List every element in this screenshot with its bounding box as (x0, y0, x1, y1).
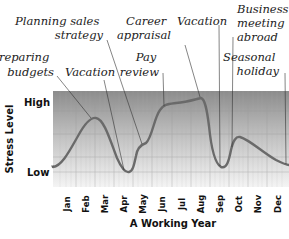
annotation-planning-sales-strategy: Planning sales strategy (14, 14, 103, 42)
annotation-business-meeting-abroad: Business meeting abroad (236, 2, 289, 44)
x-tick-may: May (138, 194, 148, 214)
annotations: Preparing budgets Vacation Planning sale… (0, 2, 289, 79)
x-axis-ticks: Jan Feb Mar Apr May Jun Jul Aug Sep Oct … (62, 194, 283, 214)
x-tick-apr: Apr (119, 195, 129, 213)
y-tick-high: High (24, 97, 50, 108)
x-tick-oct: Oct (234, 196, 244, 212)
x-tick-jan: Jan (62, 197, 72, 213)
x-tick-dec: Dec (273, 195, 283, 213)
annotation-vacation-2: Vacation (177, 14, 227, 28)
x-axis-label: A Working Year (130, 218, 216, 229)
annotation-preparing-budgets: Preparing budgets (0, 50, 54, 79)
x-tick-sep: Sep (215, 195, 225, 213)
plot-area (53, 91, 289, 187)
annotation-pay-review: Pay review (120, 50, 160, 79)
y-tick-low: Low (27, 167, 49, 178)
x-tick-aug: Aug (196, 195, 206, 214)
stress-chart: Preparing budgets Vacation Planning sale… (0, 0, 289, 239)
y-axis-label: Stress Level (4, 105, 15, 174)
x-tick-jul: Jul (177, 198, 187, 211)
x-tick-feb: Feb (81, 195, 91, 212)
annotation-seasonal-holiday: Seasonal holiday (223, 50, 279, 78)
x-tick-jun: Jun (157, 196, 167, 212)
x-tick-mar: Mar (100, 194, 110, 213)
annotation-career-appraisal: Career appraisal (117, 14, 171, 42)
annotation-vacation-1: Vacation (65, 65, 115, 79)
x-tick-nov: Nov (253, 194, 263, 213)
